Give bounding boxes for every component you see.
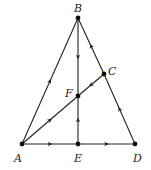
label-C: C xyxy=(108,65,117,78)
node-D xyxy=(133,142,138,147)
node-C xyxy=(102,72,107,77)
label-A: A xyxy=(13,152,22,165)
label-F: F xyxy=(64,87,73,100)
node-E xyxy=(76,142,81,147)
node-F xyxy=(76,94,81,99)
label-D: D xyxy=(132,152,142,165)
edges xyxy=(22,18,135,146)
node-B xyxy=(76,16,81,21)
label-E: E xyxy=(73,152,82,165)
directed-graph: ABCDEF xyxy=(0,0,151,170)
node-A xyxy=(20,142,25,147)
label-B: B xyxy=(73,2,82,15)
